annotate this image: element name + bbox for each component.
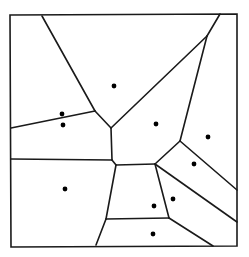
voronoi-edge bbox=[207, 14, 220, 36]
voronoi-edge bbox=[169, 218, 213, 246]
voronoi-edge bbox=[180, 36, 207, 141]
voronoi-edge bbox=[180, 141, 237, 190]
site-point bbox=[171, 197, 176, 202]
voronoi-edge bbox=[106, 165, 116, 219]
voronoi-edge bbox=[155, 141, 180, 164]
voronoi-edge bbox=[11, 159, 112, 160]
voronoi-svg bbox=[0, 0, 249, 257]
site-point bbox=[61, 123, 66, 128]
site-point bbox=[192, 162, 197, 167]
site-point bbox=[112, 84, 117, 89]
site-point bbox=[151, 232, 156, 237]
voronoi-edges bbox=[11, 14, 237, 246]
site-point bbox=[152, 204, 157, 209]
site-point bbox=[63, 187, 68, 192]
site-point bbox=[154, 122, 159, 127]
site-point bbox=[60, 112, 65, 117]
voronoi-edge bbox=[42, 16, 95, 111]
voronoi-edge bbox=[116, 164, 155, 165]
voronoi-edge bbox=[111, 128, 112, 160]
voronoi-edge bbox=[96, 219, 106, 245]
voronoi-diagram bbox=[0, 0, 249, 257]
voronoi-edge bbox=[106, 218, 169, 219]
voronoi-edge bbox=[11, 111, 95, 128]
site-point bbox=[206, 135, 211, 140]
voronoi-edge bbox=[111, 36, 207, 128]
voronoi-edge bbox=[112, 160, 116, 165]
voronoi-edge bbox=[95, 111, 111, 128]
